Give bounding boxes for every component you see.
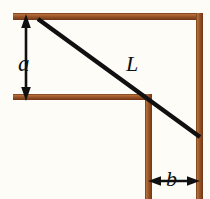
ladder-geometry-figure: a L b (0, 0, 210, 199)
middle-horizontal-beam (13, 94, 152, 100)
ladder-line (38, 19, 200, 137)
dimension-label-L: L (126, 53, 138, 75)
dimension-label-b: b (166, 168, 177, 190)
right-vertical-beam (196, 13, 203, 199)
inner-vertical-beam (145, 94, 152, 199)
figure-canvas (0, 0, 210, 199)
dimension-label-a: a (18, 52, 30, 75)
